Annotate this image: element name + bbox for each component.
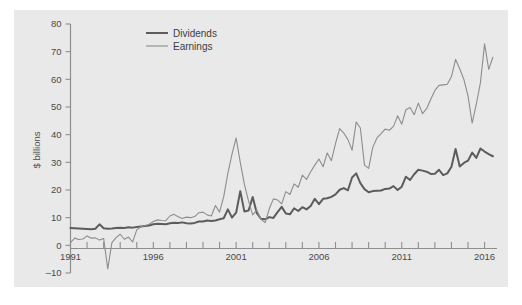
legend-label-earnings: Earnings: [173, 41, 212, 52]
y-axis-title: $ billions: [31, 131, 42, 168]
x-axis-tick-labels: 199119962001200620112016: [60, 251, 495, 262]
legend-label-dividends: Dividends: [173, 28, 217, 39]
chart-figure: –1001020304050607080 $ billions 19911996…: [0, 0, 522, 305]
x-axis-group: 199119962001200620112016: [60, 242, 497, 262]
y-tick-label: 60: [51, 74, 62, 85]
y-tick-label: 80: [51, 18, 62, 29]
y-tick-label: –10: [46, 267, 62, 278]
chart-legend: DividendsEarnings: [146, 28, 217, 52]
chart-plot-area: –1001020304050607080 $ billions 19911996…: [0, 0, 522, 305]
data-series-group: [71, 44, 493, 269]
x-tick-label: 2006: [308, 251, 329, 262]
y-axis-ticks: [66, 24, 71, 273]
y-tick-label: 40: [51, 129, 62, 140]
series-line-dividends: [71, 149, 493, 230]
x-axis-ticks: [71, 242, 485, 248]
x-tick-label: 2001: [226, 251, 247, 262]
series-line-earnings: [71, 44, 493, 269]
y-axis-group: –1001020304050607080 $ billions: [31, 18, 71, 278]
y-tick-label: 10: [51, 212, 62, 223]
y-tick-label: 50: [51, 101, 62, 112]
x-tick-label: 2016: [474, 251, 495, 262]
y-axis-tick-labels: –1001020304050607080: [46, 18, 62, 278]
y-tick-label: 20: [51, 184, 62, 195]
y-tick-label: 70: [51, 46, 62, 57]
y-tick-label: 30: [51, 157, 62, 168]
y-tick-label: 0: [56, 240, 61, 251]
x-tick-label: 1991: [60, 251, 81, 262]
x-tick-label: 2011: [392, 251, 412, 262]
x-tick-label: 1996: [143, 251, 164, 262]
